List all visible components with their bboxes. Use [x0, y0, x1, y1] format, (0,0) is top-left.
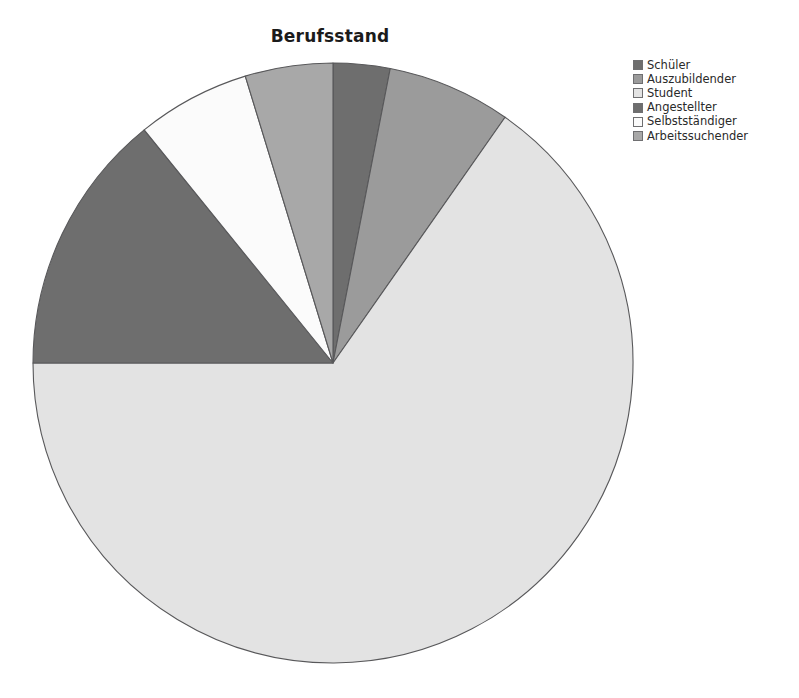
legend-swatch-icon — [633, 88, 643, 98]
legend-item-label: Arbeitssuchender — [647, 130, 748, 143]
pie-slice-group — [33, 63, 633, 663]
legend-item-label: Auszubildender — [647, 73, 736, 86]
pie-chart-svg — [0, 0, 680, 698]
legend-item-label: Student — [647, 87, 692, 100]
legend-swatch-icon — [633, 117, 643, 127]
legend-item-selbststandiger[interactable]: Selbstständiger — [633, 115, 795, 129]
legend-swatch-icon — [633, 103, 643, 113]
legend-item-angestellter[interactable]: Angestellter — [633, 101, 795, 115]
legend-swatch-icon — [633, 60, 643, 70]
legend-item-auszubildender[interactable]: Auszubildender — [633, 72, 795, 86]
legend-swatch-icon — [633, 131, 643, 141]
chart-legend: SchülerAuszubildenderStudentAngestellter… — [633, 58, 795, 143]
legend-item-schuler[interactable]: Schüler — [633, 58, 795, 72]
legend-item-arbeitssuchender[interactable]: Arbeitssuchender — [633, 129, 795, 143]
chart-page: Berufsstand SchülerAuszubildenderStudent… — [0, 0, 799, 698]
legend-swatch-icon — [633, 74, 643, 84]
legend-item-label: Angestellter — [647, 101, 717, 114]
legend-item-label: Selbstständiger — [647, 115, 737, 128]
pie-chart — [0, 0, 680, 698]
legend-item-label: Schüler — [647, 59, 690, 72]
legend-item-student[interactable]: Student — [633, 86, 795, 100]
